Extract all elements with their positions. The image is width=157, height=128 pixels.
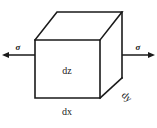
figure-container: dz dx dy σ σ — [0, 0, 157, 128]
stress-arrow-right-head — [148, 52, 155, 58]
label-stress-left: σ — [16, 42, 22, 52]
label-dx: dx — [62, 106, 72, 117]
stress-element-diagram: dz dx dy σ σ — [0, 0, 157, 128]
stress-arrow-left-head — [2, 52, 9, 58]
label-dy: dy — [120, 89, 135, 104]
label-dz: dz — [62, 65, 72, 76]
stress-arrow-right-group — [118, 52, 155, 58]
label-stress-right: σ — [136, 42, 142, 52]
